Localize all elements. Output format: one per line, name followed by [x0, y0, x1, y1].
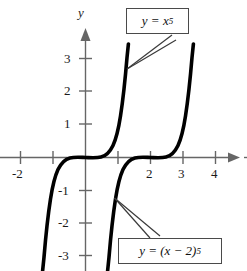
y-tick-label-2: 2: [64, 84, 71, 97]
y-tick-label-3: 3: [64, 52, 71, 65]
y-axis: [81, 28, 91, 271]
callout-label-x-to-the-fifth: y = x5: [126, 8, 189, 34]
graph-figure: y -2 2 3 4 3 2 1 -1 -2 -3 y = x5 y = (x …: [0, 0, 247, 271]
x-tick-label-neg2: -2: [12, 167, 23, 180]
callout-label-x-minus-2-to-the-fifth: y = (x − 2)5: [118, 238, 222, 264]
y-tick-label-neg3: -3: [58, 249, 69, 262]
callout-xm2-text: y = (x − 2): [139, 244, 196, 257]
x-tick-label-4: 4: [211, 167, 218, 180]
x-tick-label-3: 3: [178, 167, 185, 180]
callout-leader-bottom: [115, 198, 161, 238]
callout-x5-text: y = x: [142, 14, 169, 27]
x-tick-label-2: 2: [146, 167, 153, 180]
y-tick-label-neg2: -2: [58, 216, 69, 229]
y-tick-label-neg1: -1: [58, 184, 69, 197]
x-axis: [0, 153, 247, 163]
plot-canvas: [0, 0, 247, 271]
y-axis-label: y: [78, 6, 84, 19]
y-tick-label-1: 1: [64, 117, 71, 130]
callout-leader-top: [127, 35, 176, 69]
